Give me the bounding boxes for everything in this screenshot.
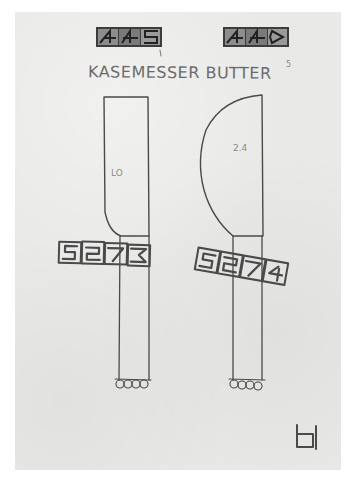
band-right-icon bbox=[195, 248, 288, 285]
title-superscript: 5 bbox=[286, 60, 291, 69]
stamp-right-icon bbox=[223, 27, 289, 47]
stamp-left-icon bbox=[96, 27, 162, 47]
blade-note-right: 2.4 bbox=[233, 143, 247, 153]
butter-knife-rivets-icon bbox=[230, 380, 262, 390]
monogram-icon bbox=[297, 425, 316, 449]
sketch-title: KASEMESSER BUTTER bbox=[88, 62, 272, 83]
butter-knife-icon bbox=[200, 95, 265, 390]
blade-note-left: LO bbox=[111, 168, 123, 178]
band-left-icon bbox=[59, 241, 151, 266]
cheese-knife-rivets-icon bbox=[116, 380, 148, 388]
